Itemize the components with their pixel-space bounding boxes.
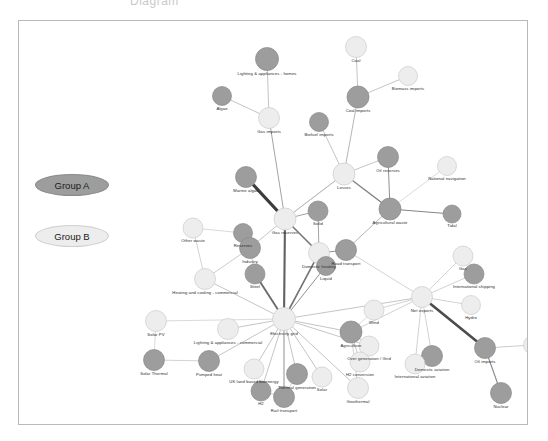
graph-node[interactable] bbox=[287, 364, 308, 385]
graph-node[interactable] bbox=[308, 201, 328, 221]
graph-node-label: Agricultural waste bbox=[373, 221, 408, 225]
graph-node[interactable] bbox=[146, 311, 167, 332]
graph-node[interactable] bbox=[244, 359, 264, 379]
graph-node-label: Net exports bbox=[411, 309, 434, 313]
graph-node-label: Losses bbox=[337, 186, 351, 190]
graph-node-label: Reserves bbox=[234, 244, 253, 248]
graph-node-label: Rail transport bbox=[271, 409, 297, 413]
graph-node-label: Heating and cooling - commercial bbox=[172, 291, 237, 295]
graph-node[interactable] bbox=[183, 218, 203, 238]
graph-node[interactable] bbox=[524, 336, 529, 355]
graph-node[interactable] bbox=[364, 300, 384, 320]
cut-off-page-title: Diagram bbox=[130, 0, 179, 8]
graph-node-label: Solar PV bbox=[147, 333, 164, 337]
graph-node-label: Algae bbox=[216, 107, 227, 111]
graph-edge bbox=[284, 297, 422, 319]
graph-node-label: Over generation / Grid bbox=[347, 357, 391, 361]
graph-node[interactable] bbox=[346, 37, 367, 58]
graph-node-label: Solid bbox=[313, 222, 323, 226]
graph-node[interactable] bbox=[144, 350, 165, 371]
graph-node-label: H2 conversion bbox=[346, 373, 374, 377]
graph-node[interactable] bbox=[378, 147, 399, 168]
graph-node[interactable] bbox=[464, 264, 484, 284]
graph-node-label: Coal bbox=[351, 59, 360, 63]
graph-node-label: Tidal bbox=[447, 224, 456, 228]
graph-node-label: Oil reserves bbox=[376, 169, 400, 173]
graph-node-label: Liquid bbox=[320, 277, 332, 281]
graph-node[interactable] bbox=[340, 321, 362, 343]
legend-group-a-label: Group A bbox=[55, 180, 90, 191]
graph-node[interactable] bbox=[199, 351, 220, 372]
graph-node-label: Solar Thermal bbox=[140, 372, 168, 376]
graph-node[interactable] bbox=[245, 264, 265, 284]
graph-node[interactable] bbox=[443, 205, 461, 223]
graph-node-label: Biomass imports bbox=[392, 87, 424, 91]
graph-node[interactable] bbox=[218, 319, 239, 340]
graph-node[interactable] bbox=[347, 86, 369, 108]
graph-edge bbox=[156, 319, 284, 321]
graph-node[interactable] bbox=[256, 48, 279, 71]
graph-node[interactable] bbox=[379, 198, 401, 220]
graph-node-label: Lighting & appliances - commercial bbox=[194, 341, 262, 345]
graph-node-label: Gas bbox=[459, 267, 467, 271]
legend-group-b[interactable]: Group B bbox=[35, 225, 109, 247]
graph-node-label: Other waste bbox=[181, 239, 205, 243]
graph-node-label: Marine algae bbox=[233, 189, 258, 193]
graph-node[interactable] bbox=[491, 383, 512, 404]
graph-node[interactable] bbox=[453, 246, 473, 266]
graph-node-label: H2 bbox=[258, 402, 264, 406]
graph-node[interactable] bbox=[475, 338, 496, 359]
graph-node-label: Hydro bbox=[465, 316, 477, 320]
graph-node-label: Road transport bbox=[331, 262, 360, 266]
graph-node[interactable] bbox=[412, 287, 433, 308]
graph-node-label: Thermal generation bbox=[278, 386, 316, 390]
graph-node-label: Oil imports bbox=[474, 360, 495, 364]
graph-node-label: Industry bbox=[242, 260, 258, 264]
graph-node-label: UK land based bioenergy bbox=[229, 380, 278, 384]
graph-panel: Lighting & appliances - homesCoalBiomass… bbox=[18, 20, 528, 425]
legend-group-b-label: Group B bbox=[54, 231, 89, 242]
graph-node-label: Gas reserves bbox=[272, 231, 298, 235]
graph-node[interactable] bbox=[333, 163, 355, 185]
graph-node[interactable] bbox=[310, 113, 329, 132]
graph-node[interactable] bbox=[195, 269, 216, 290]
graph-node-label: Steel bbox=[250, 285, 260, 289]
graph-node-label: Agriculture bbox=[340, 344, 361, 348]
graph-node[interactable] bbox=[399, 67, 418, 86]
graph-node-label: Electricity grid bbox=[270, 332, 298, 336]
graph-node-label: Biofuel imports bbox=[304, 133, 333, 137]
graph-node-label: Gas imports bbox=[257, 130, 281, 134]
graph-node-label: Geothermal bbox=[347, 400, 370, 404]
graph-node-label: Solar bbox=[317, 388, 327, 392]
graph-node[interactable] bbox=[273, 308, 296, 331]
graph-node[interactable] bbox=[462, 296, 481, 315]
graph-nodes-layer bbox=[144, 37, 529, 408]
graph-node-label: National navigation bbox=[428, 177, 466, 181]
graph-node-label: International shipping bbox=[453, 285, 495, 289]
graph-node-label: Wind bbox=[369, 321, 379, 325]
graph-node[interactable] bbox=[213, 87, 232, 106]
graph-edge bbox=[346, 250, 422, 297]
graph-node[interactable] bbox=[350, 352, 370, 372]
graph-node[interactable] bbox=[274, 208, 296, 230]
graph-node-label: Coal imports bbox=[346, 109, 371, 113]
graph-node[interactable] bbox=[240, 238, 261, 259]
graph-node-label: International aviation bbox=[395, 375, 436, 379]
graph-node-label: Nuclear bbox=[493, 405, 508, 409]
graph-node[interactable] bbox=[438, 157, 457, 176]
graph-edge bbox=[351, 297, 422, 332]
graph-node-label: Lighting & appliances - homes bbox=[238, 72, 297, 76]
graph-node-label: Pumped heat bbox=[196, 373, 222, 377]
graph-node[interactable] bbox=[336, 240, 357, 261]
graph-node-label: Domestic aviation bbox=[415, 368, 450, 372]
graph-node[interactable] bbox=[259, 108, 280, 129]
graph-node[interactable] bbox=[236, 167, 257, 188]
legend-group-a[interactable]: Group A bbox=[35, 174, 109, 196]
graph-node[interactable] bbox=[348, 378, 369, 399]
